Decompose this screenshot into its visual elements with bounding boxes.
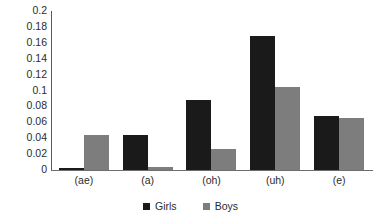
bar-girls [59,168,84,170]
x-axis-line [51,170,373,171]
y-axis-tick-label: 0.12 [0,69,47,80]
legend-square-icon [143,203,150,210]
bar-chart: 0.20.180.160.140.120.10.080.060.040.020 … [0,0,381,224]
legend-square-icon [203,203,210,210]
bar-group [180,11,244,170]
bar-girls [123,135,148,170]
bar-group [243,11,307,170]
bar-boys [84,135,109,170]
bar-girls [314,116,339,170]
bar-girls [186,100,211,170]
y-axis-tick-label: 0.02 [0,148,47,159]
y-axis-tick-label: 0.04 [0,132,47,143]
bar-group [307,11,371,170]
bar-group [116,11,180,170]
y-axis-tick-label: 0.06 [0,116,47,127]
legend-item: Girls [143,200,177,212]
y-axis-tick-label: 0.18 [0,21,47,32]
bar-boys [339,118,364,170]
x-axis-category-label: (uh) [243,173,307,189]
legend-label: Boys [215,200,238,212]
y-axis-tick-label: 0.1 [0,85,47,96]
y-axis-tick-label: 0.14 [0,53,47,64]
bar-girls [250,36,275,170]
bar-boys [211,149,236,170]
x-axis-category-label: (e) [307,173,371,189]
x-axis-category-labels: (ae)(a)(oh)(uh)(e) [52,173,371,189]
y-axis-tick-label: 0 [0,164,47,175]
x-axis-category-label: (a) [116,173,180,189]
bar-group [52,11,116,170]
x-axis-category-label: (ae) [52,173,116,189]
y-axis-tick-label: 0.16 [0,37,47,48]
bar-groups [52,11,371,170]
bar-boys [275,87,300,170]
y-axis-tick-labels: 0.20.180.160.140.120.10.080.060.040.020 [0,0,47,224]
legend-label: Girls [155,200,177,212]
legend-item: Boys [203,200,238,212]
x-axis-category-label: (oh) [180,173,244,189]
y-axis-tick-label: 0.2 [0,5,47,16]
chart-legend: GirlsBoys [0,200,381,212]
bar-boys [148,167,173,170]
y-axis-tick-label: 0.08 [0,100,47,111]
